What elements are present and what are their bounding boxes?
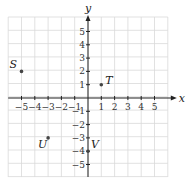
x-tick-label: −4 [28,102,42,112]
y-tick-label: −2 [72,120,85,130]
y-tick-label: −4 [72,146,86,156]
x-axis-label: x [179,92,186,105]
y-tick-label: −1 [72,106,85,116]
x-tick-label: −2 [55,102,68,112]
x-tick-label: 5 [152,102,158,112]
y-axis-arrow-icon [86,15,91,21]
x-tick-label: 4 [138,102,144,112]
point-t [100,83,104,87]
x-tick-label: 1 [98,102,104,112]
x-tick-label: −5 [15,102,29,112]
y-tick-label: 4 [79,40,85,50]
x-tick-label: 3 [125,102,131,112]
x-axis-arrow-icon [171,96,177,101]
x-tick-label: −3 [41,102,55,112]
y-tick-label: 3 [79,53,85,63]
point-v [86,149,90,153]
y-tick-label: −5 [72,160,86,170]
point-label-t: T [105,74,114,87]
y-tick-label: 2 [79,66,85,76]
point-label-s: S [10,58,18,71]
coordinate-plane: xy−5−4−3−2−11234554321−1−2−3−4−5STUV [0,0,187,191]
y-tick-label: 5 [79,27,85,37]
point-s [20,70,24,74]
point-label-v: V [91,138,100,151]
point-label-u: U [38,138,48,151]
y-tick-label: 1 [79,80,85,90]
y-axis-label: y [84,2,92,15]
y-tick-label: −3 [72,133,86,143]
x-tick-label: 2 [112,102,118,112]
